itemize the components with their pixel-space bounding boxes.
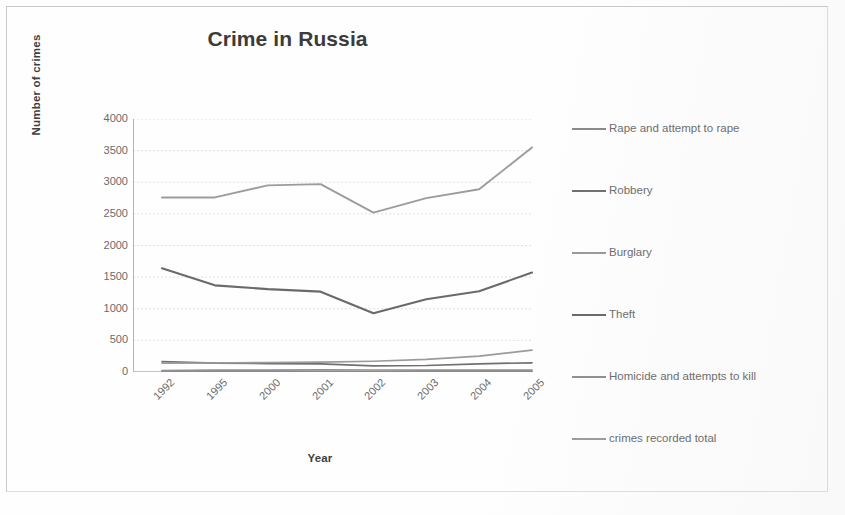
- legend-line-swatch: [572, 376, 606, 378]
- legend-line-swatch: [572, 252, 606, 254]
- series-line: [162, 350, 532, 363]
- y-axis-title: Number of crimes: [30, 20, 42, 150]
- legend-item[interactable]: Theft: [572, 308, 840, 370]
- legend-line-swatch: [572, 438, 606, 440]
- y-tick-label: 3000: [82, 175, 128, 187]
- legend-item[interactable]: Homicide and attempts to kill: [572, 370, 840, 432]
- legend-item-label: crimes recorded total: [609, 432, 716, 445]
- series-line: [162, 268, 532, 313]
- legend-item-label: Robbery: [609, 184, 652, 197]
- chart-legend: Rape and attempt to rapeRobberyBurglaryT…: [572, 122, 840, 494]
- legend-item[interactable]: Burglary: [572, 246, 840, 308]
- y-tick-label: 500: [82, 333, 128, 345]
- x-tick-label: 1992: [145, 376, 176, 407]
- legend-item[interactable]: Robbery: [572, 184, 840, 246]
- legend-item-label: Theft: [609, 308, 635, 321]
- y-tick-label: 2000: [82, 239, 128, 251]
- legend-item-label: Burglary: [609, 246, 652, 259]
- x-tick-label: 2003: [410, 376, 441, 407]
- y-tick-label: 2500: [82, 207, 128, 219]
- legend-item[interactable]: Rape and attempt to rape: [572, 122, 840, 184]
- chart-canvas: [133, 119, 533, 372]
- chart-title: Crime in Russia: [0, 27, 845, 51]
- legend-item-label: Homicide and attempts to kill: [609, 370, 756, 383]
- y-tick-label: 3500: [82, 144, 128, 156]
- legend-line-swatch: [572, 190, 606, 192]
- y-tick-label: 1000: [82, 302, 128, 314]
- x-tick-label: 2001: [304, 376, 335, 407]
- legend-line-swatch: [572, 128, 606, 130]
- x-tick-label: 2004: [463, 376, 494, 407]
- x-tick-label: 2002: [357, 376, 388, 407]
- x-tick-label: 2005: [515, 376, 546, 407]
- y-tick-label: 1500: [82, 270, 128, 282]
- x-axis-title: Year: [205, 452, 435, 464]
- legend-line-swatch: [572, 314, 606, 316]
- series-line: [162, 370, 532, 371]
- x-tick-label: 1995: [198, 376, 229, 407]
- x-axis-ticks: 19921995200020012002200320042005: [133, 376, 533, 426]
- series-line: [162, 147, 532, 212]
- y-tick-label: 0: [82, 365, 128, 377]
- plot-area: [133, 119, 533, 372]
- y-axis-ticks: 40003500300025002000150010005000: [78, 119, 128, 372]
- legend-item[interactable]: crimes recorded total: [572, 432, 840, 494]
- y-tick-label: 4000: [82, 112, 128, 124]
- legend-item-label: Rape and attempt to rape: [609, 122, 739, 135]
- x-tick-label: 2000: [251, 376, 282, 407]
